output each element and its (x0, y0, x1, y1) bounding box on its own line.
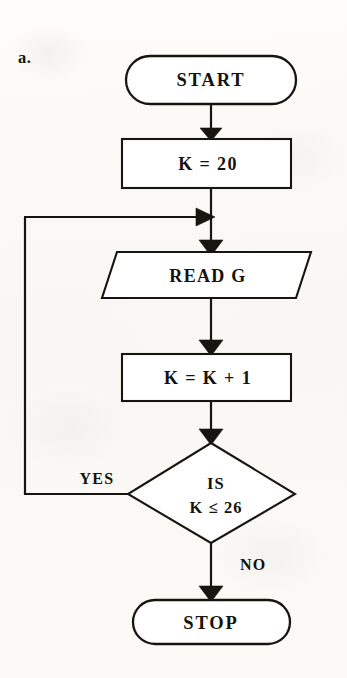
flowchart-canvas: a. START K = 20 (0, 0, 347, 678)
flowchart-page: a. START K = 20 (0, 0, 347, 678)
edge-decision-no-to-stop (199, 543, 223, 602)
increment-label: K = K + 1 (164, 368, 252, 388)
init-label: K = 20 (178, 154, 238, 174)
edge-increment-to-decision (199, 401, 223, 445)
node-read[interactable]: READ G (102, 252, 311, 298)
node-stop[interactable]: STOP (133, 600, 290, 644)
loopback-arrowhead (196, 208, 215, 226)
stop-label: STOP (183, 613, 239, 633)
branch-label-no: NO (240, 556, 267, 573)
node-decision[interactable]: IS K ≤ 26 (128, 443, 295, 543)
edge-read-to-increment (199, 298, 223, 356)
edge-start-to-init (200, 104, 222, 141)
node-init[interactable]: K = 20 (122, 139, 291, 188)
figure-item-label: a. (18, 48, 31, 67)
decision-label-line1: IS (207, 474, 225, 493)
decision-label-line2: K ≤ 26 (189, 498, 242, 517)
branch-label-yes: YES (79, 470, 114, 487)
node-start[interactable]: START (126, 56, 296, 104)
start-label: START (176, 70, 245, 90)
node-increment[interactable]: K = K + 1 (122, 354, 291, 401)
read-label: READ G (169, 266, 246, 286)
decision-diamond-shape (128, 443, 295, 543)
